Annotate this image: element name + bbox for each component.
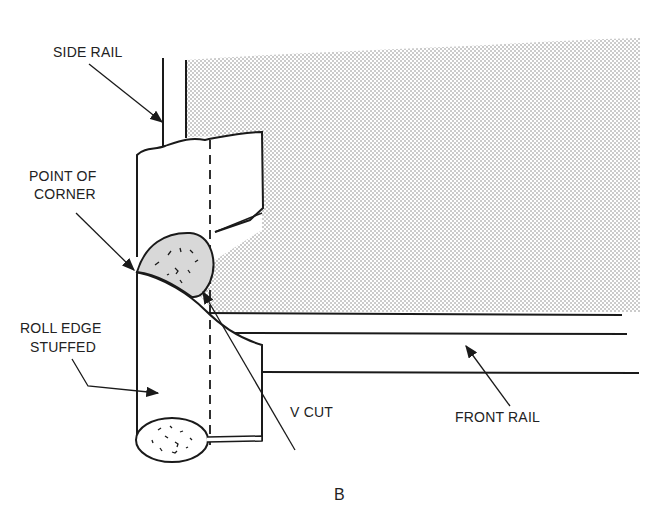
roll-end-stuffing (136, 418, 208, 462)
upholstery-corner-diagram (0, 0, 659, 526)
figure-letter: B (334, 486, 345, 503)
label-point-of-corner-line2: CORNER (34, 186, 96, 203)
label-front-rail: FRONT RAIL (455, 409, 540, 426)
label-roll-edge-line1: ROLL EDGE (20, 320, 101, 337)
label-v-cut: V CUT (290, 404, 333, 421)
label-side-rail: SIDE RAIL (53, 44, 123, 61)
label-point-of-corner-line1: POINT OF (29, 168, 96, 185)
label-roll-edge-line2: STUFFED (30, 339, 96, 356)
